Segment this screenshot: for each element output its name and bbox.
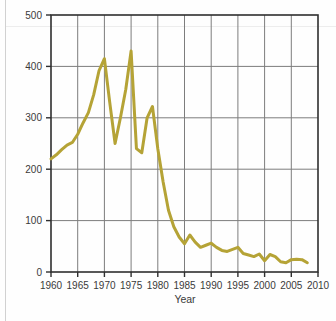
y-tick-label: 0 bbox=[36, 267, 42, 278]
x-tick-label: 1965 bbox=[67, 280, 90, 291]
x-tick-label: 1995 bbox=[227, 280, 250, 291]
x-tick-label: 1970 bbox=[93, 280, 116, 291]
line-chart: 1960196519701975198019851990199520002005… bbox=[0, 0, 336, 321]
x-tick-label: 2010 bbox=[307, 280, 330, 291]
x-tick-label: 1990 bbox=[200, 280, 223, 291]
x-tick-label: 1980 bbox=[147, 280, 170, 291]
y-tick-label: 500 bbox=[25, 10, 42, 21]
x-tick-label: 2005 bbox=[280, 280, 303, 291]
y-axis-tick-labels: 0100200300400500 bbox=[25, 10, 42, 278]
x-axis-tick-labels: 1960196519701975198019851990199520002005… bbox=[40, 280, 330, 291]
x-tick-label: 1985 bbox=[173, 280, 196, 291]
chart-figure: 1960196519701975198019851990199520002005… bbox=[0, 0, 336, 321]
x-tick-label: 2000 bbox=[253, 280, 276, 291]
vertical-gridlines bbox=[78, 15, 292, 272]
y-tick-label: 300 bbox=[25, 112, 42, 123]
x-tick-label: 1975 bbox=[120, 280, 143, 291]
y-tick-label: 200 bbox=[25, 164, 42, 175]
data-series-line bbox=[51, 51, 307, 263]
x-tick-label: 1960 bbox=[40, 280, 63, 291]
y-tick-label: 400 bbox=[25, 61, 42, 72]
y-tick-label: 100 bbox=[25, 215, 42, 226]
x-axis-title: Year bbox=[174, 293, 196, 305]
